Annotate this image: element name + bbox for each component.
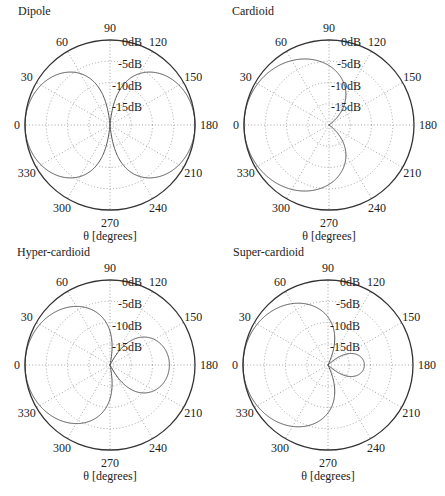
angle-tick-label: 0 <box>14 118 20 132</box>
grid-spoke <box>328 365 402 408</box>
angle-tick-label: 150 <box>402 310 420 324</box>
angle-tick-label: 300 <box>272 201 290 215</box>
grid-spoke <box>329 125 403 168</box>
grid-spoke <box>36 365 110 408</box>
angle-tick-label: 270 <box>320 216 338 230</box>
radial-tick-label: -15dB <box>330 340 360 354</box>
radial-tick-label: -15dB <box>112 100 142 114</box>
angle-tick-label: 210 <box>403 166 421 180</box>
angle-tick-label: 30 <box>21 310 33 324</box>
radial-tick-label: 0dB <box>122 35 142 49</box>
angle-tick-label: 270 <box>101 216 119 230</box>
polar-plot: 03060901201501802102402703003300dB-5dB-1… <box>222 0 445 248</box>
directivity-curve <box>25 72 195 178</box>
radial-tick-label: 0dB <box>341 35 361 49</box>
angle-tick-label: 240 <box>368 201 386 215</box>
grid-spoke <box>36 323 110 366</box>
angle-labels: 0306090120150180210240270300330 <box>232 261 436 470</box>
angle-tick-label: 60 <box>274 275 286 289</box>
angle-labels: 0306090120150180210240270300330 <box>233 21 437 230</box>
radial-labels: 0dB-5dB-10dB-15dB <box>331 35 361 114</box>
radial-tick-label: -5dB <box>336 297 360 311</box>
grid-spoke <box>329 125 372 199</box>
angle-tick-label: 330 <box>237 166 255 180</box>
polar-chart-super-cardioid: Super-cardioid 0306090120150180210240270… <box>222 243 444 491</box>
polar-plot: 03060901201501802102402703003300dB-5dB-1… <box>222 243 445 496</box>
polar-chart-cardioid: Cardioid 0306090120150180210240270300330… <box>222 0 444 248</box>
angle-tick-label: 90 <box>104 261 116 275</box>
radial-tick-label: -10dB <box>112 79 142 93</box>
radial-tick-label: -5dB <box>118 297 142 311</box>
angle-tick-label: 120 <box>367 275 385 289</box>
grid-spoke <box>68 365 111 439</box>
polar-chart-hyper-cardioid: Hyper-cardioid 0306090120150180210240270… <box>0 243 222 491</box>
grid-spoke <box>110 125 153 199</box>
angle-tick-label: 0 <box>233 118 239 132</box>
angle-tick-label: 120 <box>149 35 167 49</box>
axis-label: θ [degrees] <box>302 229 355 243</box>
angle-tick-label: 180 <box>200 358 218 372</box>
angle-tick-label: 240 <box>149 201 167 215</box>
radial-tick-label: 0dB <box>122 275 142 289</box>
radial-labels: 0dB-5dB-10dB-15dB <box>330 275 360 354</box>
angle-tick-label: 150 <box>403 70 421 84</box>
angle-tick-label: 0 <box>232 358 238 372</box>
grid-spoke <box>36 125 110 168</box>
grid-spoke <box>286 365 329 439</box>
radial-tick-label: -15dB <box>331 100 361 114</box>
angle-tick-label: 60 <box>56 35 68 49</box>
polar-plot: 03060901201501802102402703003300dB-5dB-1… <box>0 0 222 248</box>
radial-tick-label: -5dB <box>118 57 142 71</box>
grid-spoke <box>286 291 329 365</box>
angle-tick-label: 180 <box>200 118 218 132</box>
angle-tick-label: 120 <box>149 275 167 289</box>
angle-tick-label: 270 <box>319 456 337 470</box>
angle-tick-label: 90 <box>322 261 334 275</box>
directivity-curve <box>25 306 169 423</box>
radial-tick-label: 0dB <box>340 275 360 289</box>
radial-tick-label: -5dB <box>337 57 361 71</box>
axis-label: θ [degrees] <box>83 229 136 243</box>
radial-tick-label: -10dB <box>330 319 360 333</box>
angle-tick-label: 30 <box>239 310 251 324</box>
angle-tick-label: 330 <box>236 406 254 420</box>
angle-tick-label: 30 <box>21 70 33 84</box>
axis-label: θ [degrees] <box>83 469 136 483</box>
radial-labels: 0dB-5dB-10dB-15dB <box>112 275 142 354</box>
angle-tick-label: 210 <box>402 406 420 420</box>
radial-tick-label: -15dB <box>112 340 142 354</box>
grid-spoke <box>68 51 111 125</box>
radial-tick-label: -10dB <box>112 319 142 333</box>
angle-labels: 0306090120150180210240270300330 <box>14 261 218 470</box>
radial-tick-label: -10dB <box>331 79 361 93</box>
angle-tick-label: 210 <box>184 166 202 180</box>
angle-tick-label: 210 <box>184 406 202 420</box>
grid-spoke <box>68 291 111 365</box>
angle-tick-label: 120 <box>368 35 386 49</box>
grid-spoke <box>36 83 110 126</box>
angle-tick-label: 90 <box>104 21 116 35</box>
angle-tick-label: 240 <box>149 441 167 455</box>
axis-label: θ [degrees] <box>301 469 354 483</box>
angle-tick-label: 150 <box>184 70 202 84</box>
angle-tick-label: 240 <box>367 441 385 455</box>
angle-tick-label: 150 <box>184 310 202 324</box>
grid-spoke <box>254 365 328 408</box>
polar-plot: 03060901201501802102402703003300dB-5dB-1… <box>0 243 222 496</box>
angle-tick-label: 330 <box>18 406 36 420</box>
polar-chart-dipole: Dipole 03060901201501802102402703003300d… <box>0 0 222 248</box>
grid-spoke <box>68 125 111 199</box>
angle-tick-label: 300 <box>53 201 71 215</box>
angle-labels: 0306090120150180210240270300330 <box>14 21 218 230</box>
angle-tick-label: 60 <box>275 35 287 49</box>
angle-tick-label: 0 <box>14 358 20 372</box>
angle-tick-label: 330 <box>18 166 36 180</box>
angle-tick-label: 90 <box>323 21 335 35</box>
angle-tick-label: 60 <box>56 275 68 289</box>
angle-tick-label: 270 <box>101 456 119 470</box>
angle-tick-label: 180 <box>419 118 437 132</box>
angle-tick-label: 180 <box>418 358 436 372</box>
angle-tick-label: 300 <box>53 441 71 455</box>
grid-spoke <box>110 125 184 168</box>
grid-spoke <box>254 323 328 366</box>
